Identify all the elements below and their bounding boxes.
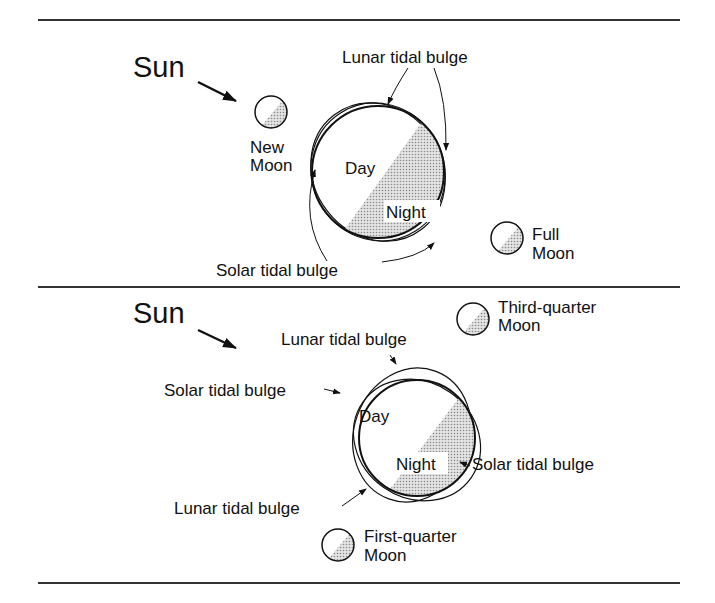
- bottom-sun-arrow: [198, 330, 236, 348]
- third-quarter-moon-icon: [457, 299, 492, 339]
- top-earth-icon: [283, 76, 473, 268]
- full-moon-label-line2: Moon: [532, 244, 575, 263]
- top-sun-arrow: [198, 82, 236, 101]
- bottom-night-label: Night: [396, 455, 436, 474]
- top-lunar-bulge-label: Lunar tidal bulge: [342, 48, 468, 67]
- full-moon-label-line1: Full: [532, 225, 559, 244]
- new-moon-label-line1: New: [250, 138, 284, 157]
- lunar-bulge-top-pointer: [390, 355, 396, 364]
- lunar-bulge-pointer-2: [434, 68, 446, 150]
- bottom-solar-bulge-right-label: Solar tidal bulge: [472, 455, 594, 474]
- new-moon-icon: [255, 92, 290, 132]
- solar-bulge-pointer-2: [382, 243, 434, 262]
- tides-diagram-art: [0, 0, 715, 603]
- bottom-solar-bulge-left-label: Solar tidal bulge: [164, 381, 286, 400]
- third-quarter-moon-label-line1: Third-quarter: [498, 298, 596, 317]
- bottom-lunar-bulge-bottom-label: Lunar tidal bulge: [174, 499, 300, 518]
- top-day-label: Day: [345, 159, 375, 178]
- top-sun-label: Sun: [133, 52, 185, 82]
- top-night-label: Night: [386, 203, 426, 222]
- lunar-bulge-pointer-1: [388, 68, 408, 104]
- bottom-day-label: Day: [359, 407, 389, 426]
- third-quarter-moon-label-line2: Moon: [498, 316, 541, 335]
- new-moon-label-line2: Moon: [250, 156, 293, 175]
- bottom-earth-icon: [330, 351, 505, 525]
- lunar-bulge-bottom-pointer: [342, 489, 366, 506]
- bottom-lunar-bulge-top-label: Lunar tidal bulge: [281, 330, 407, 349]
- first-quarter-moon-label-line1: First-quarter: [364, 527, 457, 546]
- first-quarter-moon-icon: [322, 525, 357, 565]
- first-quarter-moon-label-line2: Moon: [364, 546, 407, 565]
- solar-bulge-left-pointer: [324, 389, 340, 393]
- full-moon-icon: [491, 218, 526, 258]
- bottom-sun-label: Sun: [133, 298, 185, 328]
- top-solar-bulge-label: Solar tidal bulge: [216, 261, 338, 280]
